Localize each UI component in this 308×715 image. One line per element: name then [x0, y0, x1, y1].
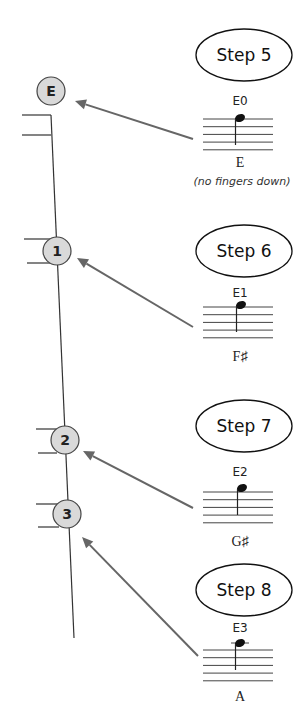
finger-position-3: 3: [36, 500, 81, 528]
finger-label: 1: [52, 243, 62, 259]
step-title: Step 8: [217, 580, 272, 600]
step-6: Step 6E1F♯: [77, 225, 292, 364]
finger-position-E: E: [22, 77, 65, 135]
string-code: E0: [232, 94, 247, 108]
note: [234, 112, 247, 145]
pointer-arrow: [82, 537, 198, 656]
string-code: E2: [232, 465, 247, 479]
arrow-shaft: [90, 545, 198, 656]
finger-position-1: 1: [24, 237, 71, 265]
note-name: A: [235, 689, 246, 704]
note-hint: (no fingers down): [193, 175, 290, 188]
note-name: E: [236, 155, 245, 170]
music-staff: [203, 482, 273, 522]
step-5: Step 5E0E(no fingers down): [75, 29, 292, 188]
note: [236, 482, 249, 515]
finger-label: E: [46, 83, 56, 99]
step-8: Step 8E3A: [82, 537, 292, 704]
pointer-arrow: [77, 258, 193, 327]
arrow-shaft: [85, 104, 193, 139]
arrow-head-icon: [75, 100, 87, 110]
pointer-arrow: [75, 100, 193, 139]
note: [235, 299, 248, 332]
steps: Step 5E0E(no fingers down)Step 6E1F♯Step…: [75, 29, 292, 704]
fingering-diagram: E123 Step 5E0E(no fingers down)Step 6E1F…: [0, 0, 308, 715]
step-title: Step 6: [217, 241, 272, 261]
arrow-shaft: [86, 264, 193, 327]
pointer-arrow: [83, 451, 193, 508]
fingerboard: E123: [22, 77, 81, 638]
arrow-shaft: [93, 456, 193, 508]
step-7: Step 7E2G♯: [83, 400, 292, 549]
music-staff: [203, 112, 273, 149]
music-staff: [203, 299, 273, 337]
string-code: E1: [232, 286, 247, 300]
note-name: F♯: [233, 349, 249, 364]
finger-label: 3: [62, 506, 72, 522]
string-line: [51, 115, 74, 638]
finger-position-2: 2: [36, 426, 79, 454]
finger-label: 2: [60, 432, 70, 448]
string-code: E3: [232, 621, 247, 635]
step-title: Step 7: [217, 416, 272, 436]
step-title: Step 5: [217, 45, 272, 65]
note-name: G♯: [231, 534, 249, 549]
music-staff: [203, 637, 273, 680]
